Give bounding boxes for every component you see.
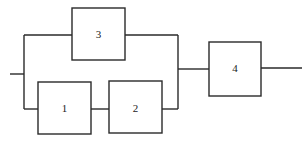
block-2-label: 2 [133, 102, 139, 114]
block-2: 2 [109, 81, 162, 133]
block-1-label: 1 [62, 102, 68, 114]
block-4-label: 4 [232, 62, 238, 74]
reliability-block-diagram: 3 1 2 4 [0, 0, 308, 153]
block-4: 4 [209, 42, 261, 96]
block-1: 1 [38, 82, 91, 134]
block-3: 3 [72, 8, 125, 60]
block-3-label: 3 [96, 28, 102, 40]
